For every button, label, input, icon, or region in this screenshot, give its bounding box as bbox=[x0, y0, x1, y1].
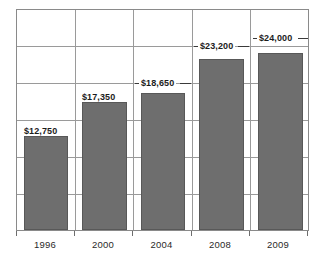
gridline-vertical bbox=[75, 10, 76, 230]
axis-tick bbox=[74, 231, 75, 236]
leader-line-right-2008 bbox=[238, 46, 249, 47]
axis-tick bbox=[249, 231, 250, 236]
x-label-2008: 2008 bbox=[191, 239, 249, 250]
axis-tick bbox=[16, 231, 17, 236]
x-label-2000: 2000 bbox=[74, 239, 132, 250]
bar-2008 bbox=[199, 59, 244, 230]
value-label-1996: $12,750 bbox=[22, 126, 59, 136]
axis-tick bbox=[132, 231, 133, 236]
axis-tick bbox=[191, 231, 192, 236]
bar-2004 bbox=[141, 93, 185, 230]
gridline-vertical bbox=[133, 10, 134, 230]
leader-line-right-2009 bbox=[298, 38, 308, 39]
bar-1996 bbox=[24, 136, 68, 230]
chart-title-remnant bbox=[0, 0, 324, 1]
gridline-vertical bbox=[250, 10, 251, 230]
leader-line-right-2004 bbox=[180, 83, 191, 84]
gridline-horizontal bbox=[17, 46, 308, 47]
x-label-1996: 1996 bbox=[16, 239, 74, 250]
bar-2009 bbox=[258, 53, 303, 230]
value-label-2009: $24,000 bbox=[257, 33, 294, 43]
x-axis-labels: 1996 2000 2004 2008 2009 bbox=[16, 239, 309, 253]
x-label-2004: 2004 bbox=[132, 239, 191, 250]
bar-2000 bbox=[82, 102, 127, 230]
gridline-vertical bbox=[192, 10, 193, 230]
value-label-2004: $18,650 bbox=[139, 78, 176, 88]
bar-chart-figure: $12,750 $17,350 $18,650 $23,200 $24,000 … bbox=[0, 0, 324, 263]
axis-tick bbox=[307, 231, 308, 236]
plot-area: $12,750 $17,350 $18,650 $23,200 $24,000 bbox=[16, 9, 309, 231]
x-axis-ticks bbox=[16, 231, 309, 236]
value-label-2000: $17,350 bbox=[80, 92, 117, 102]
value-label-2008: $23,200 bbox=[198, 41, 235, 51]
x-label-2009: 2009 bbox=[249, 239, 307, 250]
